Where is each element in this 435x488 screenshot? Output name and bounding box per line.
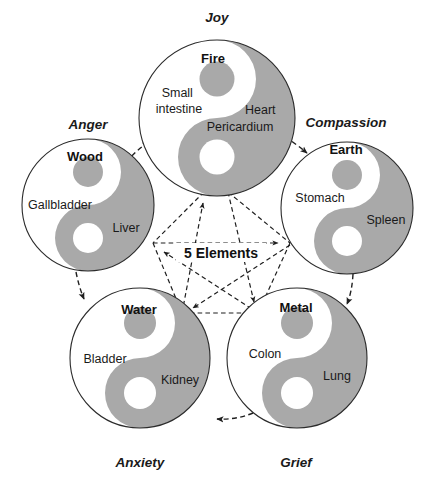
earth-element-label: Earth xyxy=(329,142,362,157)
earth-light-dot xyxy=(332,226,362,256)
element-node-metal[interactable]: Metal Colon Lung Grief xyxy=(227,288,367,470)
center-label-group: 5 Elements xyxy=(176,243,266,262)
element-node-water[interactable]: Water Bladder Kidney Anxiety xyxy=(70,288,210,470)
water-emotion-label: Anxiety xyxy=(115,455,166,470)
water-light-dot xyxy=(124,377,156,409)
fire-element-label: Fire xyxy=(201,51,225,66)
metal-element-label: Metal xyxy=(279,300,312,315)
water-yang-organ-label: Kidney xyxy=(161,373,200,387)
star-line-inner-top-right xyxy=(228,192,290,243)
earth-yang-organ-label: Spleen xyxy=(367,213,406,227)
arrow-water-to-wood xyxy=(76,272,84,299)
metal-yin-organ-label: Colon xyxy=(249,347,282,361)
wood-light-dot xyxy=(73,223,103,253)
five-elements-canvas: Joy Fire Small intestine Heart Pericardi… xyxy=(0,0,435,488)
earth-emotion-label: Compassion xyxy=(305,115,386,130)
earth-yin-organ-label: Stomach xyxy=(295,191,344,205)
fire-dark-dot xyxy=(200,62,235,97)
metal-light-dot xyxy=(281,377,313,409)
fire-yang-organ-line-2: Pericardium xyxy=(207,120,274,134)
arrow-metal-to-water xyxy=(217,413,253,419)
element-node-earth[interactable]: Compassion Earth Stomach Spleen xyxy=(281,115,413,274)
center-label: 5 Elements xyxy=(184,245,258,261)
element-node-fire[interactable]: Joy Fire Small intestine Heart Pericardi… xyxy=(139,10,295,196)
wood-yang-organ-label: Liver xyxy=(112,221,139,235)
water-yin-organ-label: Bladder xyxy=(83,352,126,366)
fire-emotion-label: Joy xyxy=(205,10,230,25)
wood-element-label: Wood xyxy=(67,149,103,164)
water-element-label: Water xyxy=(121,302,157,317)
fire-light-dot xyxy=(200,140,235,175)
fire-yin-organ-line-1: Small xyxy=(162,86,193,100)
wood-yin-organ-label: Gallbladder xyxy=(28,198,92,212)
fire-yang-organ-line-1: Heart xyxy=(245,103,276,117)
arrow-earth-to-metal xyxy=(347,274,353,304)
fire-yin-organ-line-2: intestine xyxy=(156,102,203,116)
element-node-wood[interactable]: Anger Wood Gallbladder Liver xyxy=(22,117,154,271)
five-elements-diagram: Joy Fire Small intestine Heart Pericardi… xyxy=(0,0,435,488)
earth-dark-dot xyxy=(332,160,362,190)
wood-emotion-label: Anger xyxy=(67,117,108,132)
metal-emotion-label: Grief xyxy=(280,455,313,470)
metal-yang-organ-label: Lung xyxy=(323,369,351,383)
